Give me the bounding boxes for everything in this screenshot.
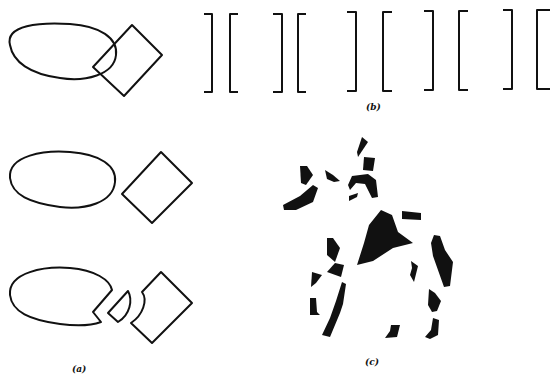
ellipse-shape (10, 152, 115, 208)
square-shape (122, 152, 192, 223)
panel-a-overlap (10, 23, 162, 96)
wedge-shape (108, 291, 130, 322)
ellipse-cut-shape (10, 268, 112, 326)
panel-a-separated (10, 152, 192, 223)
figure-canvas (0, 0, 558, 381)
panel-a-label: (a) (72, 364, 86, 374)
ellipse-shape (10, 23, 117, 79)
panel-c-label: (c) (365, 357, 379, 367)
square-shape (93, 25, 162, 96)
panel-c-silhouette (283, 137, 453, 339)
panel-b-label: (b) (366, 102, 381, 112)
square-cut-shape (131, 272, 192, 343)
panel-b-brackets (204, 10, 550, 92)
panel-a-fragmented (10, 268, 192, 343)
